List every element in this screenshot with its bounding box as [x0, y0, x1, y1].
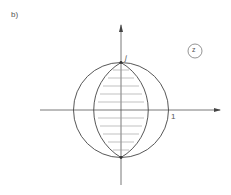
complex-plane-diagram [0, 0, 231, 195]
point-j [120, 61, 123, 64]
plane-label-circle-icon [188, 44, 202, 58]
point-minus-j [120, 156, 123, 159]
y-axis-arrow-icon [119, 24, 123, 32]
x-axis-arrow-icon [214, 108, 221, 112]
